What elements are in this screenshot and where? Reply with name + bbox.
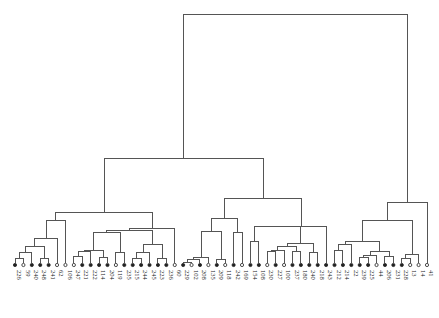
leaf-marker xyxy=(425,263,428,266)
leaf-marker xyxy=(123,263,126,266)
leaf-marker xyxy=(173,263,176,266)
leaf-label: 237 xyxy=(294,270,301,281)
leaf-label: 235 xyxy=(126,270,133,280)
leaf-marker xyxy=(140,263,143,266)
leaf-label: 214 xyxy=(344,270,351,281)
leaf-marker xyxy=(190,263,193,266)
leaf-marker xyxy=(30,263,33,266)
leaf-label: 62 xyxy=(58,270,65,277)
leaf-label: 14 xyxy=(420,270,427,277)
leaf-label: 241 xyxy=(50,270,57,280)
leaf-marker xyxy=(89,263,92,266)
leaf-marker xyxy=(64,263,67,266)
leaf-label: 240 xyxy=(33,270,40,280)
leaf-label: 119 xyxy=(117,270,124,280)
leaf-label: 227 xyxy=(277,270,284,281)
leaf-label: 59 xyxy=(25,270,32,277)
leaf-marker xyxy=(417,263,420,266)
leaf-label: 106 xyxy=(67,270,74,281)
leaf-marker xyxy=(47,263,50,266)
leaf-marker xyxy=(282,263,285,266)
leaf-marker xyxy=(156,263,159,266)
leaf-label: 41 xyxy=(428,270,435,277)
leaf-marker xyxy=(383,263,386,266)
leaf-marker xyxy=(240,263,243,266)
leaf-marker xyxy=(131,263,134,266)
leaf-label: 229 xyxy=(184,270,191,280)
leaf-label: 60 xyxy=(176,270,183,277)
leaf-marker xyxy=(350,263,353,266)
leaf-label: 206 xyxy=(386,270,393,281)
leaf-label: 222 xyxy=(92,270,99,280)
leaf-label: 118 xyxy=(226,270,233,280)
leaf-marker xyxy=(215,263,218,266)
leaf-marker xyxy=(148,263,151,266)
leaf-label: 230 xyxy=(268,270,275,280)
leaf-label: 208 xyxy=(201,270,208,280)
leaf-label: 248 xyxy=(41,270,48,280)
leaf-marker xyxy=(375,263,378,266)
leaf-label: 236 xyxy=(168,270,175,281)
leaf-label: 212 xyxy=(336,270,343,280)
leaf-marker xyxy=(13,263,16,266)
leaf-marker xyxy=(198,263,201,266)
leaf-label: 239 xyxy=(361,270,368,280)
leaf-label: 226 xyxy=(16,270,23,281)
leaf-marker xyxy=(55,263,58,266)
leaf-label: 135 xyxy=(210,270,217,280)
leaf-marker xyxy=(409,263,412,266)
leaf-marker xyxy=(341,263,344,266)
leaf-marker xyxy=(39,263,42,266)
leaf-marker xyxy=(333,263,336,266)
leaf-label: 228 xyxy=(403,270,410,280)
leaf-marker xyxy=(81,263,84,266)
leaf-marker xyxy=(249,263,252,266)
leaf-label: 44 xyxy=(378,270,385,277)
leaf-label: 100 xyxy=(285,270,292,280)
leaf-marker xyxy=(207,263,210,266)
leaf-label: 114 xyxy=(100,270,107,280)
leaf-marker xyxy=(308,263,311,266)
leaf-label: 244 xyxy=(142,270,149,281)
leaf-marker xyxy=(392,263,395,266)
leaf-marker xyxy=(358,263,361,266)
leaf-marker xyxy=(257,263,260,266)
leaf-label: 221 xyxy=(83,270,90,280)
leaf-marker xyxy=(232,263,235,266)
leaf-label: 223 xyxy=(159,270,166,280)
leaf-label: 180 xyxy=(302,270,309,280)
leaf-label: 245 xyxy=(151,270,158,280)
leaf-marker xyxy=(97,263,100,266)
leaf-label: 22 xyxy=(353,270,360,277)
leaf-marker xyxy=(316,263,319,266)
leaf-label: 13 xyxy=(411,270,418,277)
leaf-marker xyxy=(106,263,109,266)
leaf-label: 209 xyxy=(218,270,225,280)
leaf-marker xyxy=(22,263,25,266)
leaf-label: 215 xyxy=(134,270,141,280)
leaf-label: 204 xyxy=(109,270,116,281)
leaf-marker xyxy=(224,263,227,266)
dendrogram-leaves: 2265924024824162106247221222114204119235… xyxy=(13,263,435,280)
dendrogram-chart: 2265924024824162106247221222114204119235… xyxy=(0,0,439,318)
leaf-marker xyxy=(72,263,75,266)
leaf-marker xyxy=(274,263,277,266)
leaf-label: 169 xyxy=(243,270,250,280)
leaf-label: 247 xyxy=(75,270,82,281)
leaf-marker xyxy=(291,263,294,266)
leaf-label: 225 xyxy=(369,270,376,280)
leaf-marker xyxy=(400,263,403,266)
leaf-marker xyxy=(182,263,185,266)
leaf-label: 243 xyxy=(327,270,334,280)
leaf-marker xyxy=(325,263,328,266)
leaf-marker xyxy=(165,263,168,266)
leaf-label: 240 xyxy=(310,270,317,280)
dendrogram-links xyxy=(15,14,427,263)
leaf-label: 154 xyxy=(252,270,259,281)
leaf-marker xyxy=(299,263,302,266)
leaf-marker xyxy=(114,263,117,266)
leaf-marker xyxy=(266,263,269,266)
leaf-label: 231 xyxy=(395,270,402,280)
leaf-label: 102 xyxy=(193,270,200,280)
leaf-label: 108 xyxy=(260,270,267,280)
